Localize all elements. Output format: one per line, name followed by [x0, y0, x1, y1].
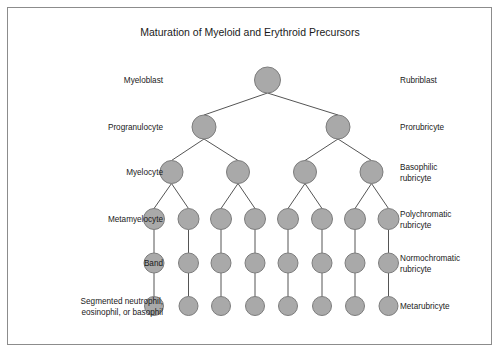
label-line: Metamyelocyte [108, 215, 164, 224]
label-line: rubricyte [400, 265, 432, 274]
cell-circle [326, 115, 350, 139]
cell-circle [179, 253, 199, 273]
cell-circles-group [144, 67, 400, 316]
left-label-row-metamyelocyte: Metamyelocyte [108, 215, 164, 224]
figure-container: Maturation of Myeloid and Erythroid Prec… [0, 0, 500, 353]
connector-line [172, 184, 189, 209]
cell-circle [212, 297, 231, 316]
cell-circle [360, 161, 383, 184]
label-line: Progranulocyte [108, 123, 164, 132]
label-line: Polychromatic [400, 210, 451, 219]
cell-circle [313, 297, 332, 316]
cell-circle [278, 209, 299, 230]
connector-line [204, 139, 238, 161]
cell-circle [179, 297, 198, 316]
right-label-row-progranulocyte: Prorubricyte [400, 123, 445, 132]
label-line: Rubriblast [400, 76, 438, 85]
label-line: rubricyte [400, 221, 432, 230]
connector-line [372, 184, 389, 209]
cell-circle [279, 297, 298, 316]
cell-circle [211, 209, 232, 230]
cell-circle [211, 253, 231, 273]
cell-circle [345, 253, 365, 273]
cell-circle [312, 253, 332, 273]
connector-line [305, 184, 322, 209]
connector-line [355, 184, 372, 209]
label-line: Myelocyte [126, 168, 163, 177]
cell-circle [160, 161, 183, 184]
left-label-row-band: Band [144, 259, 164, 268]
right-label-row-band: Normochromaticrubricyte [400, 254, 460, 274]
connector-line [204, 93, 268, 115]
cell-circle [245, 253, 265, 273]
label-line: Band [144, 259, 164, 268]
connector-line [221, 184, 238, 209]
cell-circle [192, 115, 216, 139]
connector-line [172, 139, 205, 161]
connector-line [305, 139, 338, 161]
cell-circle [246, 297, 265, 316]
connector-line [154, 184, 172, 209]
right-label-row-myelocyte: Basophilicrubricyte [400, 163, 437, 183]
label-line: Metarubricyte [400, 302, 450, 311]
label-line: Normochromatic [400, 254, 460, 263]
left-label-row-myelocyte: Myelocyte [126, 168, 163, 177]
connector-line [268, 93, 339, 115]
label-line: Basophilic [400, 163, 437, 172]
label-line: Prorubricyte [400, 123, 445, 132]
figure-title: Maturation of Myeloid and Erythroid Prec… [140, 26, 359, 38]
stage-labels-group: MyeloblastRubriblastProgranulocyteProrub… [81, 76, 460, 317]
connector-line [238, 184, 255, 209]
cell-circle [255, 67, 281, 93]
right-label-row-blast: Rubriblast [400, 76, 438, 85]
connector-line [288, 184, 305, 209]
cell-circle [346, 297, 365, 316]
label-line: rubricyte [400, 174, 432, 183]
cell-circle [379, 253, 399, 273]
right-label-row-metamyelocyte: Polychromaticrubricyte [400, 210, 451, 230]
cell-circle [227, 161, 250, 184]
left-label-row-progranulocyte: Progranulocyte [108, 123, 164, 132]
cell-circle [178, 209, 199, 230]
label-line: Myeloblast [124, 76, 164, 85]
label-line: Segmented neutrophil, [81, 297, 163, 306]
connector-line [338, 139, 372, 161]
right-label-row-segmented: Metarubricyte [400, 302, 450, 311]
cell-circle [278, 253, 298, 273]
cell-circle [245, 209, 266, 230]
cell-circle [294, 161, 317, 184]
left-label-row-blast: Myeloblast [124, 76, 164, 85]
cell-circle [378, 209, 399, 230]
cell-circle [345, 209, 366, 230]
cell-circle [379, 297, 398, 316]
label-line: eosinophil, or basophil [82, 308, 164, 317]
cell-circle [312, 209, 333, 230]
maturation-diagram: Maturation of Myeloid and Erythroid Prec… [0, 0, 500, 353]
